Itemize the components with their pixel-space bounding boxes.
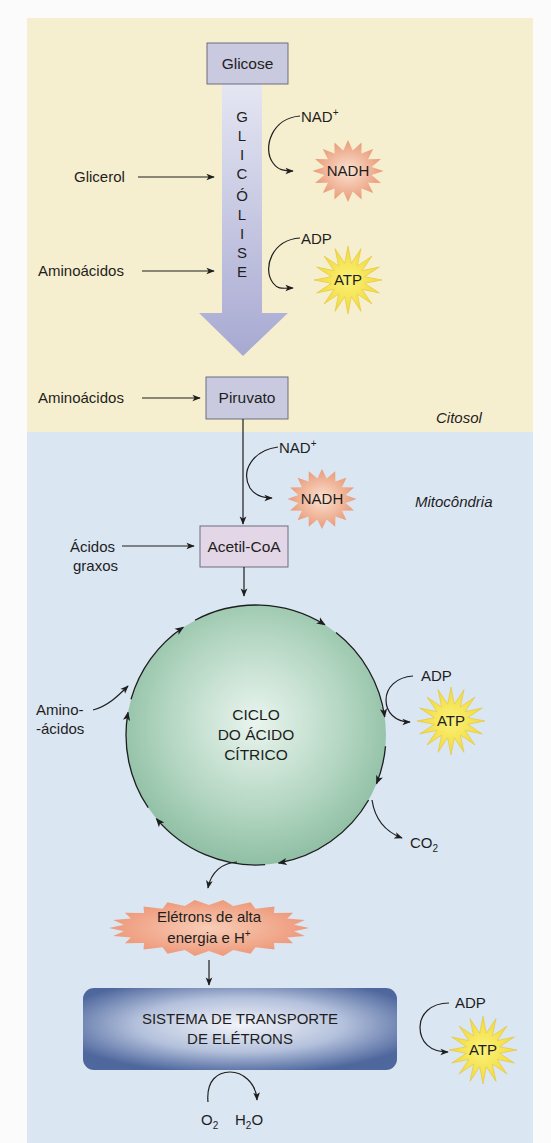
- svg-text:graxos: graxos: [73, 557, 118, 574]
- atp-star-glycolysis: ATP: [314, 246, 382, 314]
- acetyl-coa-box: Acetil-CoA: [200, 526, 288, 567]
- svg-text:Aminoácidos: Aminoácidos: [38, 262, 124, 279]
- citric-acid-cycle: CICLO DO ÁCIDO CÍTRICO: [126, 605, 386, 865]
- svg-text:NADH: NADH: [327, 162, 370, 179]
- svg-text:Glicerol: Glicerol: [74, 168, 125, 185]
- pyruvate-label: Piruvato: [219, 389, 276, 406]
- svg-text:L: L: [238, 206, 246, 223]
- svg-text:ADP: ADP: [301, 230, 332, 247]
- svg-text:ATP: ATP: [437, 712, 465, 729]
- svg-text:G: G: [236, 108, 248, 125]
- cycle-label-line3: CÍTRICO: [224, 746, 288, 763]
- svg-text:S: S: [237, 244, 247, 261]
- svg-text:ATP: ATP: [469, 1041, 497, 1058]
- svg-text:I: I: [240, 146, 244, 163]
- svg-text:SISTEMA DE TRANSPORTE: SISTEMA DE TRANSPORTE: [142, 1010, 338, 1027]
- svg-text:E: E: [237, 263, 247, 280]
- svg-text:Ácidos: Ácidos: [70, 538, 115, 555]
- svg-text:ATP: ATP: [334, 271, 362, 288]
- svg-text:C: C: [237, 165, 248, 182]
- atp-star-cycle: ATP: [417, 687, 485, 755]
- amino-acids-input-pyruvate: Aminoácidos: [38, 389, 200, 406]
- cycle-label-line1: CICLO: [232, 706, 279, 723]
- svg-text:DE ELÉTRONS: DE ELÉTRONS: [187, 1030, 293, 1047]
- svg-text:ADP: ADP: [421, 667, 452, 684]
- svg-text:NAD+: NAD+: [279, 438, 317, 456]
- nadh-burst-pdh: NADH: [288, 469, 357, 529]
- svg-text:O2: O2: [201, 1111, 219, 1131]
- cycle-label-line2: DO ÁCIDO: [218, 726, 295, 743]
- cycle-to-electrons-arrow: [208, 862, 237, 888]
- cytosol-label: Citosol: [436, 409, 483, 426]
- glycerol-input: Glicerol: [74, 168, 214, 185]
- svg-text:-ácidos: -ácidos: [36, 720, 84, 737]
- svg-text:L: L: [238, 127, 246, 144]
- high-energy-electrons-burst: Elétrons de alta energia e H+: [109, 900, 309, 956]
- svg-text:H2O: H2O: [235, 1111, 263, 1131]
- glucose-label: Glicose: [222, 55, 274, 72]
- svg-text:Ó: Ó: [236, 187, 248, 204]
- svg-text:Amino-: Amino-: [36, 701, 84, 718]
- pyruvate-box: Piruvato: [206, 377, 288, 419]
- glycolysis-label: G L I C Ó L I S E: [236, 108, 248, 280]
- cycle-co2-release: CO2: [372, 800, 439, 854]
- electron-transport-system-box: SISTEMA DE TRANSPORTE DE ELÉTRONS: [83, 988, 397, 1070]
- acetyl-coa-label: Acetil-CoA: [207, 538, 281, 555]
- svg-text:Aminoácidos: Aminoácidos: [38, 389, 124, 406]
- svg-text:ADP: ADP: [455, 994, 486, 1011]
- nadh-burst-glycolysis: NADH: [312, 140, 383, 202]
- fatty-acids-input: Ácidos graxos: [70, 538, 194, 574]
- amino-acids-input-glycolysis: Aminoácidos: [38, 262, 214, 279]
- svg-text:I: I: [240, 225, 244, 242]
- oxygen-to-water-reaction: O2 H2O: [201, 1072, 263, 1131]
- amino-acids-input-cycle: Amino- -ácidos: [36, 686, 128, 737]
- glucose-box: Glicose: [207, 43, 288, 84]
- mitochondria-label: Mitocôndria: [415, 493, 493, 510]
- cellular-respiration-diagram: G L I C Ó L I S E Glicose Glicerol Amino…: [0, 0, 551, 1143]
- svg-text:NAD+: NAD+: [301, 107, 339, 125]
- svg-text:CO2: CO2: [410, 834, 439, 854]
- svg-text:NADH: NADH: [301, 490, 344, 507]
- atp-star-ets: ATP: [449, 1016, 517, 1084]
- svg-text:Elétrons de alta: Elétrons de alta: [157, 908, 262, 925]
- svg-text:energia e H+: energia e H+: [167, 928, 251, 946]
